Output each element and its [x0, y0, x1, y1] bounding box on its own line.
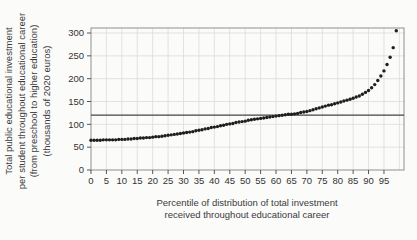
data-point [194, 129, 197, 132]
y-tick-label: 0 [79, 164, 84, 175]
data-point [151, 135, 154, 138]
data-point [271, 115, 274, 118]
data-point [395, 29, 398, 32]
data-point [324, 104, 327, 107]
data-point [311, 108, 314, 111]
x-tick-label: 55 [255, 175, 266, 186]
data-point [342, 99, 345, 102]
data-point [367, 89, 370, 92]
data-point [317, 106, 320, 109]
data-point [148, 136, 151, 139]
data-point [302, 110, 305, 113]
data-point [358, 94, 361, 97]
data-point [185, 131, 188, 134]
data-point [256, 117, 259, 120]
x-tick-label: 65 [286, 175, 297, 186]
data-point [284, 113, 287, 116]
x-tick-label: 45 [224, 175, 235, 186]
data-point [373, 83, 376, 86]
data-point [290, 113, 293, 116]
data-point [120, 138, 123, 141]
data-point [382, 69, 385, 72]
y-tick-label: 300 [68, 27, 84, 38]
data-point [213, 125, 216, 128]
data-point [253, 118, 256, 121]
data-point [327, 103, 330, 106]
x-tick-label: 30 [178, 175, 189, 186]
data-point [308, 109, 311, 112]
data-point [206, 127, 209, 130]
data-point [191, 130, 194, 133]
y-tick-label: 150 [68, 96, 84, 107]
data-point [392, 46, 395, 49]
data-point [95, 139, 98, 142]
data-point [169, 133, 172, 136]
data-point [92, 139, 95, 142]
y-tick-label: 50 [73, 141, 84, 152]
x-tick-label: 35 [194, 175, 205, 186]
x-tick-label: 5 [104, 175, 109, 186]
x-tick-label: 80 [332, 175, 343, 186]
x-tick-label: 85 [348, 175, 359, 186]
data-point [333, 102, 336, 105]
data-point [314, 107, 317, 110]
data-point [305, 110, 308, 113]
data-point [237, 120, 240, 123]
data-point [163, 134, 166, 137]
data-point [210, 126, 213, 129]
data-point [179, 132, 182, 135]
data-point [376, 79, 379, 82]
data-point [348, 98, 351, 101]
data-point [370, 86, 373, 89]
x-tick-label: 15 [132, 175, 143, 186]
data-point [287, 113, 290, 116]
data-point [197, 129, 200, 132]
data-point [145, 136, 148, 139]
data-point [89, 139, 92, 142]
data-point [182, 131, 185, 134]
data-point [136, 137, 139, 140]
x-tick-label: 95 [379, 175, 390, 186]
data-point [330, 103, 333, 106]
data-point [216, 125, 219, 128]
data-point [108, 138, 111, 141]
data-point [336, 101, 339, 104]
data-point [154, 135, 157, 138]
data-point [379, 74, 382, 77]
data-point [176, 132, 179, 135]
x-tick-label: 40 [209, 175, 220, 186]
data-point [385, 63, 388, 66]
data-point [228, 122, 231, 125]
x-tick-label: 20 [147, 175, 158, 186]
data-point [265, 116, 268, 119]
data-point [102, 138, 105, 141]
data-point [99, 139, 102, 142]
x-tick-label: 70 [302, 175, 313, 186]
data-point [160, 135, 163, 138]
data-point [339, 100, 342, 103]
data-point [129, 137, 132, 140]
data-point [117, 138, 120, 141]
data-point [157, 135, 160, 138]
data-point [111, 138, 114, 141]
data-point [105, 138, 108, 141]
data-point [268, 115, 271, 118]
x-tick-label: 0 [88, 175, 93, 186]
data-point [225, 123, 228, 126]
data-point [188, 130, 191, 133]
data-point [126, 137, 129, 140]
data-point [132, 137, 135, 140]
x-tick-label: 90 [363, 175, 374, 186]
x-axis-title-line: Percentile of distribution of total inve… [87, 197, 407, 209]
data-point [364, 91, 367, 94]
data-point [250, 118, 253, 121]
y-tick-label: 250 [68, 50, 84, 61]
x-tick-label: 75 [317, 175, 328, 186]
data-point [166, 134, 169, 137]
data-point [262, 116, 265, 119]
data-point [234, 121, 237, 124]
data-point [345, 98, 348, 101]
data-point [243, 119, 246, 122]
x-axis-title: Percentile of distribution of total inve… [87, 197, 407, 220]
data-point [296, 112, 299, 115]
